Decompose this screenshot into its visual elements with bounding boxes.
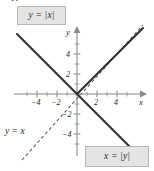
x-tick-label-4: 4: [114, 98, 118, 107]
y-tick-label-neg4: −4: [62, 130, 71, 139]
x-tick-label-neg2: −2: [51, 98, 60, 107]
line-y-equals-abs-x: [17, 28, 143, 94]
x-tick-label-2: 2: [94, 98, 98, 107]
x-axis-label: x: [138, 97, 143, 107]
label-y-equals-abs-x: y = |x|: [17, 6, 66, 25]
y-tick-label-2: 2: [66, 70, 70, 79]
absolute-value-graph-figure: 21.: [0, 0, 154, 171]
y-tick-label-neg2: −2: [62, 110, 71, 119]
label-x-equals-abs-y: x = |y|: [85, 146, 149, 167]
x-tick-label-neg4: −4: [31, 98, 40, 107]
y-tick-label-4: 4: [66, 50, 70, 59]
y-axis-label: y: [65, 27, 70, 37]
label-y-equals-x: y = x: [5, 127, 25, 137]
